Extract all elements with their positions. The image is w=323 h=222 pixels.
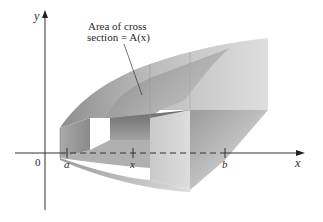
origin-label: 0 <box>35 156 41 168</box>
slab-at-x <box>150 110 190 190</box>
x-axis-label: x <box>294 156 301 170</box>
diagram-canvas: y x 0 a x b Area of cross section = A(x) <box>0 0 323 222</box>
tick-label-b: b <box>222 158 228 170</box>
annotation-line-2: section = A(x) <box>87 31 150 44</box>
right-lower-face <box>190 110 268 190</box>
tick-label-x: x <box>129 158 135 170</box>
tick-label-a: a <box>64 158 70 170</box>
solid-body <box>60 38 268 192</box>
y-axis-arrow-icon <box>42 10 48 18</box>
y-axis-label: y <box>33 9 40 23</box>
